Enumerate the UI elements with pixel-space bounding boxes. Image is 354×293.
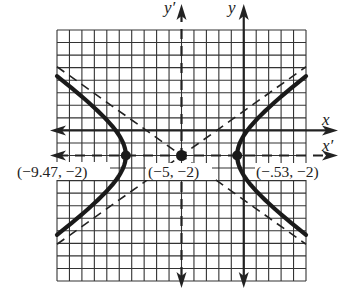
y-axis-label: y: [226, 0, 236, 17]
x-prime-axis-label: x′: [321, 136, 334, 155]
left-vertex-point: [121, 151, 131, 161]
left-vertex-label: (−9.47, −2): [17, 163, 87, 181]
right-vertex-label: (−.53, −2): [256, 163, 319, 181]
center-point: [176, 150, 187, 161]
y-prime-axis-label: y′: [162, 0, 176, 17]
x-axis-label: x: [321, 110, 330, 129]
right-vertex-point: [232, 151, 242, 161]
hyperbola-graph: x x′ y′ y (−9.47, −2) (−5, −2) (−.53, −2…: [0, 0, 354, 293]
center-label: (−5, −2): [148, 163, 199, 181]
